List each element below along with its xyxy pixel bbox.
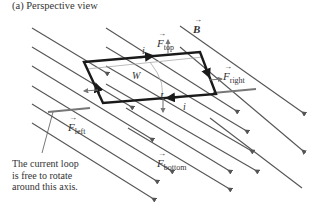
force-top-label: Ftop (157, 34, 174, 52)
field-label-B: B (193, 20, 200, 36)
force-arrows (84, 40, 222, 112)
force-left-label: Fleft (68, 118, 85, 136)
current-loop (84, 52, 216, 103)
perspective-view-diagram: (a) Perspective view B Ftop Fright Fleft… (0, 0, 313, 204)
caption-pointer-line (42, 112, 53, 153)
force-bottom-label: Fbottom (157, 154, 186, 172)
length-label-L: L (160, 92, 166, 102)
current-label-top: i (142, 46, 145, 56)
force-right-label: Fright (223, 67, 245, 85)
axis-caption: The current loop is free to rotate aroun… (12, 158, 79, 193)
diagram-title: (a) Perspective view (12, 0, 98, 11)
current-label-bottom: i (183, 102, 186, 112)
width-label-W: W (132, 71, 140, 81)
